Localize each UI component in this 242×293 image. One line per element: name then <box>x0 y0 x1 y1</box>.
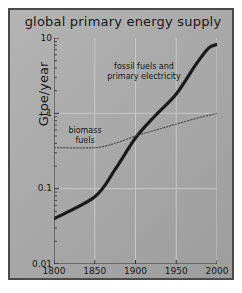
y-axis-tick-label: 1 <box>46 109 52 118</box>
chart-title: global primary energy supply <box>10 14 234 29</box>
x-axis-tick-label: 2000 <box>206 266 229 276</box>
annotation-fossil-fuels: fossil fuels and primary electricity <box>98 62 190 82</box>
x-axis-tick-label: 1900 <box>124 266 147 276</box>
x-axis-tick-label: 1850 <box>83 266 106 276</box>
y-axis-tick-label: 0.1 <box>38 184 52 193</box>
x-axis-tick-label: 1800 <box>43 266 66 276</box>
x-axis-tick-labels: 18001850190019502000 <box>54 266 217 280</box>
chart-panel: global primary energy supply Gtoe/year 0… <box>8 8 234 280</box>
annotation-biomass-fuels: biomass fuels <box>54 126 116 146</box>
y-axis-tick-label: 10 <box>41 34 52 43</box>
chart-figure: global primary energy supply Gtoe/year 0… <box>0 0 242 293</box>
x-axis-tick-label: 1950 <box>165 266 188 276</box>
y-axis-tick-labels: 0.010.1110 <box>18 38 52 264</box>
